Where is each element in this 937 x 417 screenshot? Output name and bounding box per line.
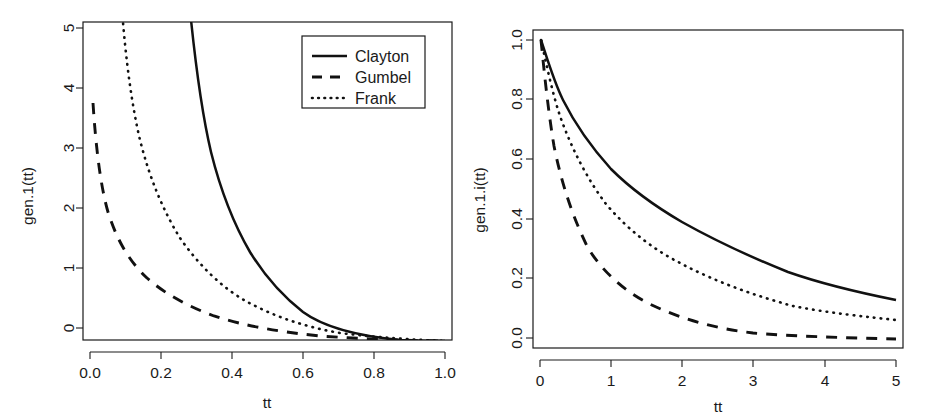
data-curves: [541, 40, 896, 339]
y-tick-label: 3: [60, 144, 77, 153]
right-panel-svg: 0.0 0.2 0.4 0.6 0.8 1.0 0 1 2: [468, 0, 937, 417]
curve-frank: [541, 40, 896, 320]
x-tick-label: 1.0: [434, 364, 456, 381]
x-axis-tick-labels: 0 1 2 3 4 5: [536, 372, 901, 389]
y-tick-label: 0.4: [508, 208, 525, 230]
y-axis-tick-labels: 0.0 0.2 0.4 0.6 0.8 1.0: [508, 29, 525, 349]
chart-panel-right: 0.0 0.2 0.4 0.6 0.8 1.0 0 1 2: [468, 0, 937, 417]
y-tick-label: 1.0: [508, 29, 525, 51]
legend: Clayton Gumbel Frank: [302, 36, 425, 108]
x-axis-title: tt: [263, 394, 272, 411]
legend-label-gumbel: Gumbel: [355, 69, 411, 86]
y-axis-ticks: [76, 28, 83, 328]
figure-container: 0 1 2 3 4 5 0.0 0.2 0.4 0.6: [0, 0, 937, 417]
x-tick-label: 1: [607, 372, 616, 389]
x-tick-label: 0.6: [292, 364, 314, 381]
y-axis-tick-labels: 0 1 2 3 4 5: [60, 24, 77, 333]
y-axis-ticks: [526, 40, 533, 338]
chart-panel-left: 0 1 2 3 4 5 0.0 0.2 0.4 0.6: [0, 0, 469, 417]
x-tick-label: 3: [749, 372, 758, 389]
y-tick-label: 0: [60, 323, 77, 332]
x-tick-label: 0.0: [79, 364, 101, 381]
x-tick-label: 2: [678, 372, 687, 389]
x-tick-label: 4: [821, 372, 830, 389]
x-axis: [540, 360, 896, 367]
y-tick-label: 0.2: [508, 267, 525, 289]
y-axis-title: gen.1.i(tt): [471, 167, 488, 232]
curve-clayton: [541, 40, 896, 300]
x-axis-title: tt: [714, 398, 723, 415]
y-tick-label: 0.6: [508, 148, 525, 170]
x-tick-label: 0: [536, 372, 545, 389]
curve-gumbel: [93, 103, 445, 341]
x-tick-label: 5: [892, 372, 901, 389]
plot-frame: [533, 30, 903, 348]
y-tick-label: 1: [60, 264, 77, 273]
curve-gumbel: [541, 40, 896, 339]
x-axis: [90, 352, 445, 359]
legend-label-frank: Frank: [355, 90, 397, 107]
x-tick-label: 0.4: [221, 364, 243, 381]
y-tick-label: 4: [60, 83, 77, 92]
y-tick-label: 5: [60, 24, 77, 33]
y-tick-label: 0.0: [508, 327, 525, 349]
legend-label-clayton: Clayton: [355, 48, 409, 65]
y-tick-label: 2: [60, 204, 77, 213]
left-panel-svg: 0 1 2 3 4 5 0.0 0.2 0.4 0.6: [0, 0, 469, 417]
x-tick-label: 0.2: [150, 364, 172, 381]
x-tick-label: 0.8: [363, 364, 385, 381]
y-axis-title: gen.1(tt): [19, 167, 36, 225]
x-axis-tick-labels: 0.0 0.2 0.4 0.6 0.8 1.0: [79, 364, 456, 381]
y-tick-label: 0.8: [508, 88, 525, 110]
